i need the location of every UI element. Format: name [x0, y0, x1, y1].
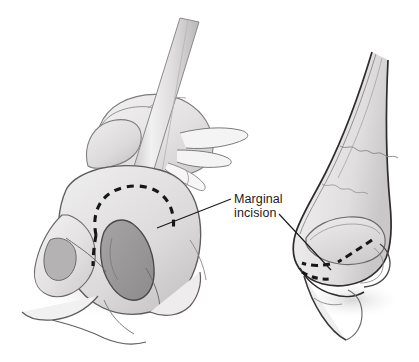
illustration-canvas: Marginal incision — [0, 0, 419, 362]
medical-illustration-figure: Marginal incision — [0, 0, 419, 362]
nostril-opening-left — [44, 238, 76, 280]
marginal-incision-label-line1: Marginal — [234, 192, 283, 206]
marginal-incision-label-line2: incision — [234, 206, 277, 220]
